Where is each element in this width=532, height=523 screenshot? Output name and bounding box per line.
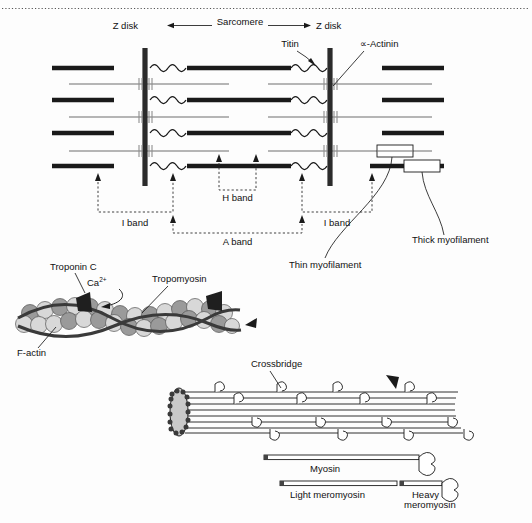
crossbridge-label: Crossbridge [251,358,302,369]
h-band-label: H band [222,192,253,203]
i-band-right-label: I band [324,217,350,228]
titin-label: Titin [281,38,299,49]
heavy-meromyosin-label-line2: meromyosin [404,499,456,510]
figure-canvas: Z disk) --> Z disk Sarcomere Z disk [0,0,532,523]
thick-myofilament-leader [422,172,444,235]
myosin-label: Myosin [310,463,340,474]
thin-myofilament-label: Thin myofilament [289,259,362,270]
thin-myofilament-leader [325,157,392,258]
thick-myofilament-highlight-box [404,160,440,172]
calcium-label: Ca2+ [87,276,107,288]
crossbridge-heads [215,382,474,441]
crossbridge-leader [270,371,281,388]
troponin-c-leader [75,273,85,293]
troponin-c-marker-right [206,291,222,311]
myosin-molecule-detail: Myosin Light meromyosin Heavy meromyosin [264,452,458,510]
z-disk-right-label: Z disk [316,20,342,31]
troponin-c-label: Troponin C [50,261,97,272]
tropomyosin-label: Tropomyosin [152,273,207,284]
a-band-bracket [170,215,305,233]
i-band-right-bracket [299,173,375,212]
light-meromyosin-label: Light meromyosin [290,489,365,500]
alpha-actinin-label: ∝-Actinin [360,38,398,49]
light-meromyosin-molecule [280,481,397,486]
h-band-bracket [216,154,259,190]
thick-myofilament-label: Thick myofilament [412,234,489,245]
thick-myofilament-arrowhead [386,375,399,389]
f-actin-label: F-actin [17,347,46,358]
i-band-left-label: I band [122,217,148,228]
z-disk-left-label: Z disk [113,20,139,31]
thick-filament-detail: Crossbridge [168,358,474,440]
thin-filament-detail: Troponin C Ca2+ Tropomyosin F-actin [16,261,258,358]
myosin-molecule [264,452,435,475]
i-band-left-bracket [95,173,176,212]
sarcomere-figure: Z disk) --> Z disk Sarcomere Z disk [0,0,532,523]
sarcomere-panel: Z disk) --> Z disk Sarcomere Z disk [52,16,489,270]
a-band-label: A band [223,236,253,247]
f-actin-beads [16,298,240,337]
thin-myofilament-arrowhead [245,318,257,328]
thin-filaments [69,84,432,151]
sarcomere-label: Sarcomere [217,16,263,27]
alpha-actinin-leader [333,51,364,86]
troponin-c-marker-left [76,292,92,312]
